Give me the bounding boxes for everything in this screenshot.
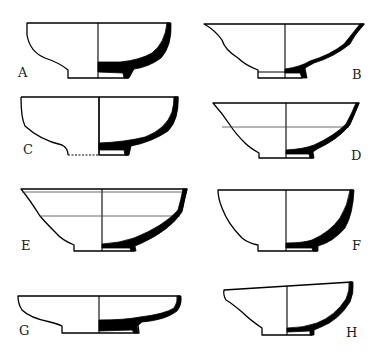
- vessel-label-f: F: [352, 238, 361, 253]
- vessel-profile-b: B: [204, 24, 364, 82]
- vessel-profile-f: F: [218, 190, 361, 253]
- vessel-label-g: G: [19, 323, 29, 338]
- pottery-profiles-figure: A B C D E F: [0, 0, 381, 353]
- vessel-label-h: H: [346, 325, 357, 340]
- vessel-profile-a: A: [17, 23, 171, 80]
- vessel-profile-h: H: [224, 282, 358, 340]
- vessel-label-e: E: [21, 238, 31, 253]
- vessel-label-c: C: [23, 142, 33, 157]
- vessel-profile-g: G: [18, 296, 181, 338]
- vessel-profile-d: D: [213, 103, 361, 163]
- vessel-label-d: D: [351, 148, 361, 163]
- vessel-profile-c: C: [21, 97, 178, 157]
- vessel-label-b: B: [352, 67, 362, 82]
- vessel-label-a: A: [17, 65, 28, 80]
- vessel-profile-e: E: [21, 189, 187, 253]
